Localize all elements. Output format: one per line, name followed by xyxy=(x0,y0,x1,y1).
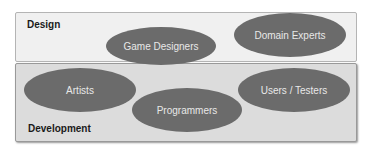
node-domain-experts: Domain Experts xyxy=(234,13,346,57)
design-group-label: Design xyxy=(27,19,60,30)
node-programmers: Programmers xyxy=(132,88,242,132)
development-group-label: Development xyxy=(28,123,91,134)
node-artists: Artists xyxy=(24,68,136,112)
node-users-testers: Users / Testers xyxy=(238,68,350,112)
node-game-designers: Game Designers xyxy=(106,27,216,65)
